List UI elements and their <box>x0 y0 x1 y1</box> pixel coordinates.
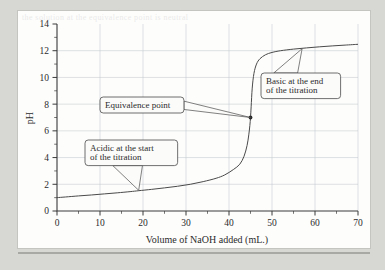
basic-end-callout-leader <box>274 49 302 73</box>
titration-curve-line <box>57 44 358 197</box>
leader-lines-layer <box>113 49 302 191</box>
x-tick-label: 30 <box>181 218 191 228</box>
y-tick-label: 8 <box>44 100 49 110</box>
tick-marks-layer <box>53 24 359 216</box>
x-tick-label: 60 <box>310 218 320 228</box>
y-tick-label: 14 <box>40 19 50 29</box>
x-axis-title: Volume of NaOH added (mL.) <box>146 234 268 246</box>
equivalence-point-callout-line: Equivalence point <box>105 100 171 110</box>
basic-end-callout-line: Basic at the end <box>266 76 324 86</box>
acidic-start-callout-line: of the titration <box>90 152 142 162</box>
x-tick-label: 0 <box>55 218 60 228</box>
axis-spines <box>57 24 358 211</box>
y-tick-label: 4 <box>44 153 49 163</box>
x-tick-label: 20 <box>138 218 148 228</box>
callout-layer: Equivalence pointBasic at the endof the … <box>85 73 341 166</box>
y-tick-label: 6 <box>44 126 49 136</box>
y-axis-title: pH <box>24 112 35 124</box>
y-tick-label: 12 <box>40 46 50 56</box>
equivalence-point-callout-leader <box>184 101 251 117</box>
y-tick-label: 2 <box>44 180 49 190</box>
acidic-start-callout-line: Acidic at the start <box>90 143 154 153</box>
x-tick-label: 40 <box>224 218 234 228</box>
x-tick-label: 50 <box>267 218 277 228</box>
acidic-start-callout-leader <box>113 166 143 191</box>
y-tick-label: 10 <box>40 73 50 83</box>
curve-layer <box>57 44 358 197</box>
figure-root: the solution at the equivalence point is… <box>0 0 385 270</box>
axis-layer <box>57 24 358 211</box>
x-tick-label: 10 <box>95 218 105 228</box>
titration-chart: Equivalence pointBasic at the endof the … <box>0 0 385 270</box>
grid-layer <box>57 24 358 211</box>
x-tick-label: 70 <box>353 218 363 228</box>
basic-end-callout-line: of the titration <box>266 85 318 95</box>
y-tick-label: 0 <box>44 206 49 216</box>
